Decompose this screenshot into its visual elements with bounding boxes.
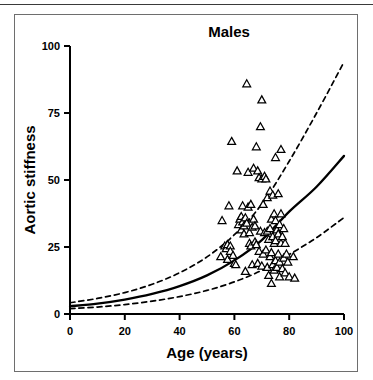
scatter-marker-triangle (250, 215, 258, 222)
scatter-marker-triangle (225, 202, 233, 209)
x-tick-label: 60 (228, 325, 240, 337)
confidence-band-curve (70, 62, 344, 303)
scatter-marker-triangle (274, 250, 282, 257)
scatter-marker-triangle (272, 154, 280, 161)
x-tick-label: 20 (119, 325, 131, 337)
x-tick-label: 40 (173, 325, 185, 337)
scatter-marker-triangle (228, 137, 236, 144)
scatter-marker-triangle (277, 145, 285, 152)
y-tick-label: 0 (54, 308, 60, 320)
scatter-marker-triangle (277, 210, 285, 217)
scatter-marker-triangle (217, 253, 225, 260)
scatter-marker-triangle (233, 167, 241, 174)
chart-title: Males (208, 23, 250, 40)
y-tick-label: 50 (48, 174, 60, 186)
y-tick-label: 75 (48, 107, 60, 119)
scatter-marker-triangle (258, 96, 266, 103)
x-tick-label: 100 (335, 325, 353, 337)
scatter-marker-triangle (274, 190, 282, 197)
scatter-marker-triangle (218, 216, 226, 223)
scatter-marker-triangle (241, 267, 249, 274)
x-axis-title: Age (years) (166, 344, 248, 361)
chart-canvas: 0255075100020406080100MalesAge (years)Ao… (15, 15, 357, 371)
y-tick-label: 25 (48, 241, 60, 253)
regression-curve (70, 156, 344, 306)
figure-frame: 0255075100020406080100MalesAge (years)Ao… (14, 14, 358, 372)
scatter-marker-triangle (270, 210, 278, 217)
page-top-rule (0, 4, 373, 5)
scatter-marker-triangle (259, 200, 267, 207)
scatter-marker-triangle (252, 143, 260, 150)
y-axis-title: Aortic stiffness (21, 125, 38, 234)
scatter-marker-triangle (243, 80, 251, 87)
scatter-marker-triangle (257, 123, 265, 130)
scatter-marker-triangle (267, 279, 275, 286)
confidence-band-curve (70, 218, 344, 309)
x-tick-label: 80 (283, 325, 295, 337)
x-tick-label: 0 (67, 325, 73, 337)
y-tick-label: 100 (42, 40, 60, 52)
